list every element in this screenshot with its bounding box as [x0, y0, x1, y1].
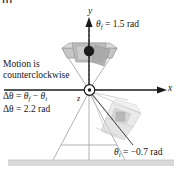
y-axis-label: y: [88, 6, 92, 17]
initial-ball: [116, 112, 125, 121]
theta-final-equals: =: [105, 19, 110, 29]
figure-drawing-canvas: [0, 0, 180, 171]
delta-theta-equals-1: =: [16, 91, 21, 101]
delta-theta-line1: Δθ = θf − θi: [3, 91, 50, 103]
theta-final-label: θf = 1.5 rad: [96, 19, 139, 31]
theta-initial-equals: =: [123, 147, 128, 157]
delta-theta-value: 2.2 rad: [24, 104, 50, 114]
theta-initial-label: θi = −0.7 rad: [114, 147, 162, 159]
figure-tag: III: [2, 0, 13, 3]
delta-theta-minus: −: [33, 91, 38, 101]
theta-initial-subscript: i: [119, 151, 121, 158]
delta-theta-equations: Δθ = θf − θi Δθ = 2.2 rad: [3, 91, 50, 115]
delta-theta-prefix-1: Δθ: [3, 91, 14, 101]
theta-final-value: 1.5 rad: [113, 19, 139, 29]
motion-note-line2: counterclockwise: [3, 70, 69, 81]
delta-theta-prefix-2: Δθ: [3, 104, 14, 114]
theta-final-subscript: f: [101, 23, 103, 30]
motion-note-line1: Motion is: [3, 59, 69, 70]
delta-theta-equals-2: =: [16, 104, 21, 114]
delta-theta-term2-sub: i: [45, 95, 47, 102]
ground-surface: [8, 160, 174, 166]
rotating-wedge-initial: [96, 99, 141, 140]
z-axis-label: z: [77, 95, 80, 104]
physics-figure-angular-displacement: III y x z θf = 1.5 rad θi = −0.7 rad Mot…: [0, 0, 180, 171]
z-axis-out-of-page-marker: [84, 85, 95, 96]
theta-initial-value: −0.7 rad: [131, 147, 163, 157]
delta-theta-line2: Δθ = 2.2 rad: [3, 104, 50, 115]
delta-theta-term1-sub: f: [28, 95, 30, 102]
motion-direction-note: Motion is counterclockwise: [3, 59, 69, 80]
x-axis-label: x: [168, 83, 172, 94]
